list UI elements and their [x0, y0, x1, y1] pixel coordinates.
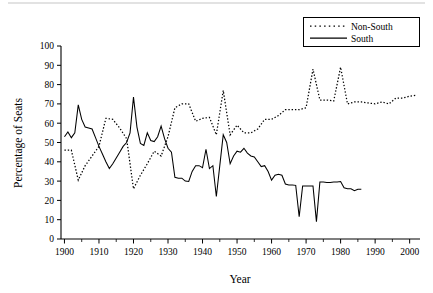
- x-tick-label-group: 1900191019201930194019501960197019801990…: [55, 247, 419, 257]
- y-tick-group: [57, 46, 61, 239]
- y-tick-label: 0: [49, 234, 54, 244]
- x-tick-label: 1900: [55, 247, 74, 257]
- x-tick-label: 1940: [193, 247, 212, 257]
- y-tick-label: 80: [45, 80, 55, 90]
- x-tick-label: 1970: [297, 247, 316, 257]
- series-line-non-south: [64, 67, 416, 189]
- y-tick-label: 100: [40, 41, 55, 51]
- y-axis-title: Percentage of Seats: [12, 97, 25, 188]
- y-tick-label-group: 0102030405060708090100: [40, 41, 55, 244]
- x-axis: 1900191019201930194019501960197019801990…: [55, 239, 420, 285]
- x-tick-label: 1960: [262, 247, 281, 257]
- y-tick-label: 30: [45, 177, 55, 187]
- x-tick-label: 1990: [366, 247, 385, 257]
- x-tick-label: 1980: [331, 247, 350, 257]
- x-axis-title: Year: [229, 273, 250, 285]
- x-tick-label: 1930: [159, 247, 178, 257]
- chart-figure: 0102030405060708090100 Percentage of Sea…: [0, 0, 433, 293]
- y-tick-label: 20: [45, 196, 55, 206]
- chart-legend: Non-South South: [304, 18, 420, 47]
- line-chart: 0102030405060708090100 Percentage of Sea…: [0, 0, 433, 293]
- legend-label-non-south: Non-South: [351, 22, 393, 32]
- legend-label-south: South: [351, 34, 373, 44]
- y-axis: 0102030405060708090100 Percentage of Sea…: [12, 41, 61, 244]
- y-tick-label: 10: [45, 215, 55, 225]
- y-tick-label: 60: [45, 119, 55, 129]
- plot-area: [64, 67, 416, 221]
- x-tick-label: 2000: [400, 247, 419, 257]
- y-tick-label: 90: [45, 61, 55, 71]
- series-line-south: [64, 97, 361, 221]
- x-tick-label: 1920: [124, 247, 143, 257]
- y-tick-label: 50: [45, 138, 55, 148]
- y-tick-label: 70: [45, 99, 55, 109]
- x-tick-label: 1950: [228, 247, 247, 257]
- x-tick-label: 1910: [89, 247, 108, 257]
- y-tick-label: 40: [45, 157, 55, 167]
